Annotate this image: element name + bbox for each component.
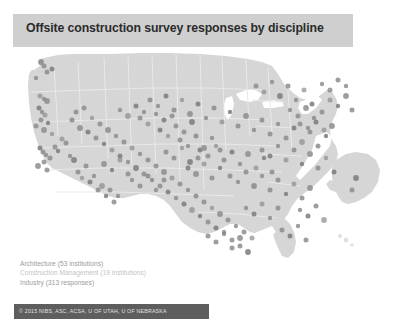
respondent-dot xyxy=(101,161,107,167)
respondent-dot xyxy=(112,200,117,205)
respondent-dot xyxy=(164,150,169,155)
respondent-dot xyxy=(353,175,359,181)
respondent-dot xyxy=(320,82,324,86)
respondent-dot xyxy=(71,157,77,163)
respondent-dot xyxy=(196,102,201,107)
respondent-dot xyxy=(238,162,242,166)
respondent-dot xyxy=(276,178,281,183)
respondent-dot xyxy=(270,80,274,84)
respondent-dot xyxy=(276,144,280,148)
respondent-dot xyxy=(260,202,265,207)
respondent-dot xyxy=(186,166,191,171)
respondent-dot xyxy=(244,170,249,175)
respondent-dot xyxy=(260,118,265,123)
respondent-dot xyxy=(35,163,41,169)
respondent-dot xyxy=(166,134,170,138)
respondent-dot xyxy=(138,184,143,189)
respondent-dot xyxy=(158,184,163,189)
respondent-dot xyxy=(53,145,58,150)
respondent-dot xyxy=(122,140,127,145)
respondent-dot xyxy=(76,170,81,175)
respondent-dot xyxy=(262,156,266,160)
respondent-dot xyxy=(300,196,305,201)
respondent-dot xyxy=(138,152,142,156)
respondent-dot xyxy=(126,160,130,164)
respondent-dot xyxy=(350,108,355,113)
respondent-dot xyxy=(314,204,319,209)
respondent-dot xyxy=(296,224,300,228)
respondent-dot xyxy=(154,164,159,169)
respondent-dot xyxy=(158,128,163,133)
respondent-dot xyxy=(226,218,231,223)
respondent-dot xyxy=(343,93,349,99)
respondent-dot xyxy=(306,214,311,219)
respondent-dot xyxy=(250,236,255,241)
respondent-dot xyxy=(204,116,208,120)
respondent-dot xyxy=(350,188,355,193)
respondent-dot xyxy=(324,134,328,138)
respondent-dot xyxy=(110,148,115,153)
florida-peninsula xyxy=(272,216,296,258)
respondent-dot xyxy=(187,159,193,165)
respondent-dot xyxy=(292,148,297,153)
respondent-dot xyxy=(180,98,184,102)
respondent-dot xyxy=(182,130,187,135)
respondent-dot xyxy=(220,120,225,125)
respondent-dot xyxy=(110,168,114,172)
respondent-dot xyxy=(80,176,84,180)
respondent-dot xyxy=(310,102,315,107)
respondent-dot xyxy=(308,130,313,135)
respondent-dot xyxy=(64,141,69,146)
respondent-dot xyxy=(244,206,248,210)
respondent-dot xyxy=(280,228,285,233)
respondent-dot xyxy=(105,127,111,133)
respondent-dot xyxy=(321,217,327,223)
respondent-dot xyxy=(218,166,222,170)
respondent-dot xyxy=(193,171,199,177)
respondent-dot xyxy=(102,142,106,146)
respondent-dot xyxy=(126,172,131,177)
respondent-dot xyxy=(156,104,160,108)
respondent-dot xyxy=(238,244,243,249)
respondent-dot xyxy=(134,104,139,109)
respondent-dot xyxy=(125,113,131,119)
respondent-dot xyxy=(194,194,199,199)
respondent-dot xyxy=(133,165,139,171)
respondent-dot xyxy=(228,110,232,114)
respondent-dot xyxy=(92,174,96,178)
respondent-dot xyxy=(344,84,348,88)
respondent-dot xyxy=(284,192,288,196)
respondent-dot xyxy=(48,156,53,161)
respondent-dot xyxy=(41,127,47,133)
respondent-dot xyxy=(214,240,219,245)
respondent-dot xyxy=(303,105,309,111)
respondent-dot xyxy=(84,164,89,169)
respondent-dot xyxy=(276,206,281,211)
respondent-dot xyxy=(201,145,207,151)
legend: Architecture (53 institutions) Construct… xyxy=(20,259,230,287)
respondent-dot xyxy=(98,122,103,127)
respondent-dot xyxy=(44,153,48,157)
respondent-dot xyxy=(336,104,340,108)
respondent-dot xyxy=(45,168,50,173)
respondent-dot xyxy=(74,110,79,115)
respondent-dot xyxy=(202,200,207,205)
respondent-dot xyxy=(276,122,280,126)
respondent-dot xyxy=(245,249,251,255)
respondent-dot xyxy=(180,146,184,150)
respondent-dot xyxy=(222,230,226,234)
respondent-dot xyxy=(206,220,211,225)
respondent-dot xyxy=(210,176,215,181)
respondent-dot xyxy=(288,108,292,112)
respondent-dot xyxy=(202,162,207,167)
respondent-dot xyxy=(294,98,298,102)
respondent-dot xyxy=(260,148,265,153)
respondent-dot xyxy=(189,119,195,125)
respondent-dot xyxy=(304,238,309,243)
respondent-dot xyxy=(260,174,264,178)
respondent-dot xyxy=(218,148,223,153)
respondent-dot xyxy=(243,113,249,119)
legend-item-industry: Industry (313 responses) xyxy=(20,278,230,287)
respondent-dot xyxy=(82,106,87,111)
respondent-dot xyxy=(45,70,50,75)
